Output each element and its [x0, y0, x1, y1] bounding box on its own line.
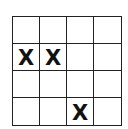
cell-r2-c2[interactable] — [67, 71, 94, 98]
cell-r3-c1[interactable] — [40, 98, 67, 125]
cell-r1-c0[interactable]: X — [13, 44, 40, 71]
cell-r1-c1[interactable]: X — [40, 44, 67, 71]
cell-r3-c2[interactable]: X — [67, 98, 94, 125]
cell-r0-c2[interactable] — [67, 17, 94, 44]
cell-r3-c0[interactable] — [13, 98, 40, 125]
cell-r1-c3[interactable] — [94, 44, 121, 71]
cell-r0-c0[interactable] — [13, 17, 40, 44]
cell-r0-c3[interactable] — [94, 17, 121, 44]
cell-r1-c2[interactable] — [67, 44, 94, 71]
cell-r2-c0[interactable] — [13, 71, 40, 98]
cell-r2-c1[interactable] — [40, 71, 67, 98]
cell-r3-c3[interactable] — [94, 98, 121, 125]
cell-r0-c1[interactable] — [40, 17, 67, 44]
cell-r2-c3[interactable] — [94, 71, 121, 98]
game-board: X X X — [12, 16, 122, 126]
